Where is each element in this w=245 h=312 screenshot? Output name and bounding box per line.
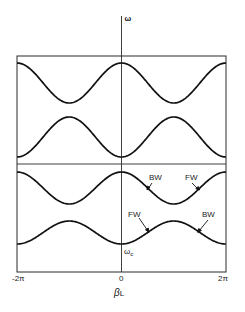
tick-label-center: 0 <box>119 274 124 283</box>
annotation-lower-bw: BW <box>202 210 215 219</box>
dispersion-chart: ω BW FW FW BW ωc -2π 0 2π βL <box>0 0 245 312</box>
tick-label-right: 2π <box>218 274 228 283</box>
x-axis-label: βL <box>113 287 125 298</box>
annotation-upper-fw: FW <box>185 173 198 182</box>
omega-c-sub: c <box>130 251 133 257</box>
y-axis-label: ω <box>125 14 132 23</box>
tick-label-left: -2π <box>12 274 25 283</box>
x-axis-label-l: L <box>120 289 125 298</box>
annotation-upper-bw: BW <box>149 173 162 182</box>
omega-c-label: ωc <box>124 247 133 257</box>
annotation-lower-fw: FW <box>128 210 141 219</box>
